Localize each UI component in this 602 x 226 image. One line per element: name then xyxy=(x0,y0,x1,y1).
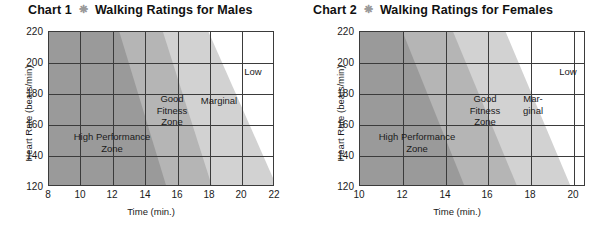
chart-2-xtick-12: 12 xyxy=(387,190,417,200)
chart-1-ytick-200: 200 xyxy=(3,58,43,68)
chart-2-gridline-v-20 xyxy=(574,32,575,185)
chart-1-zone-bands xyxy=(49,32,273,185)
chart-1-gridline-h-160 xyxy=(49,125,273,126)
chart-1-xtick-18: 18 xyxy=(194,190,224,200)
chart-1-xtick-14: 14 xyxy=(130,190,160,200)
chart-1-block: Chart 1 ❋ Walking Ratings for Males Hear… xyxy=(0,0,301,226)
chart-2-xtick-20: 20 xyxy=(558,190,588,200)
chart-1-gridline-h-140 xyxy=(49,156,273,157)
chart-1-title-text: Walking Ratings for Males xyxy=(95,3,253,17)
chart-1-gridline-v-16 xyxy=(178,32,179,185)
chart-2-gridline-h-160 xyxy=(360,125,584,126)
chart-2-ytick-160: 160 xyxy=(314,120,354,130)
asterisk-icon: ❋ xyxy=(79,4,88,15)
chart-1-ytick-220: 220 xyxy=(3,27,43,37)
chart-2-gridline-h-180 xyxy=(360,94,584,95)
chart-1-title: Chart 1 ❋ Walking Ratings for Males xyxy=(28,1,253,19)
chart-2-zone-bands xyxy=(360,32,584,185)
chart-1-x-axis-label: Time (min.) xyxy=(28,206,274,217)
chart-1-gridline-h-180 xyxy=(49,94,273,95)
chart-2-gridline-v-18 xyxy=(531,32,532,185)
chart-2-gridline-h-200 xyxy=(360,63,584,64)
chart-1-xtick-8: 8 xyxy=(33,190,63,200)
chart-2-gridline-v-16 xyxy=(488,32,489,185)
chart-1-gridline-v-14 xyxy=(145,32,146,185)
walking-ratings-figure: Chart 1 ❋ Walking Ratings for Males Hear… xyxy=(0,0,602,226)
chart-1-gridline-v-12 xyxy=(113,32,114,185)
chart-1-ytick-140: 140 xyxy=(3,151,43,161)
chart-1-xtick-22: 22 xyxy=(259,190,289,200)
chart-1-xtick-20: 20 xyxy=(226,190,256,200)
chart-2-title-text: Walking Ratings for Females xyxy=(380,3,553,17)
chart-1-ytick-160: 160 xyxy=(3,120,43,130)
chart-1-xtick-16: 16 xyxy=(162,190,192,200)
chart-2-x-axis-label: Time (min.) xyxy=(339,206,575,217)
chart-1-xtick-10: 10 xyxy=(65,190,95,200)
chart-2-title: Chart 2 ❋ Walking Ratings for Females xyxy=(313,1,553,19)
chart-2-gridline-v-12 xyxy=(403,32,404,185)
chart-1-plot-area xyxy=(48,31,274,186)
chart-1-gridline-h-200 xyxy=(49,63,273,64)
chart-1-ytick-180: 180 xyxy=(3,89,43,99)
chart-2-gridline-v-14 xyxy=(446,32,447,185)
chart-2-number: Chart 2 xyxy=(313,3,357,17)
chart-1-gridline-v-20 xyxy=(242,32,243,185)
chart-2-xtick-14: 14 xyxy=(430,190,460,200)
chart-1-gridline-v-10 xyxy=(80,32,81,185)
chart-2-xtick-18: 18 xyxy=(515,190,545,200)
chart-2-ytick-200: 200 xyxy=(314,58,354,68)
chart-2-xtick-10: 10 xyxy=(344,190,374,200)
chart-2-xtick-16: 16 xyxy=(472,190,502,200)
chart-1-xtick-12: 12 xyxy=(97,190,127,200)
chart-2-ytick-180: 180 xyxy=(314,89,354,99)
chart-2-plot-area xyxy=(359,31,585,186)
asterisk-icon: ❋ xyxy=(364,4,373,15)
chart-2-ytick-220: 220 xyxy=(314,27,354,37)
chart-2-gridline-h-140 xyxy=(360,156,584,157)
chart-1-gridline-v-18 xyxy=(210,32,211,185)
chart-1-number: Chart 1 xyxy=(28,3,72,17)
chart-2-block: Chart 2 ❋ Walking Ratings for Females He… xyxy=(301,0,602,226)
chart-2-ytick-140: 140 xyxy=(314,151,354,161)
